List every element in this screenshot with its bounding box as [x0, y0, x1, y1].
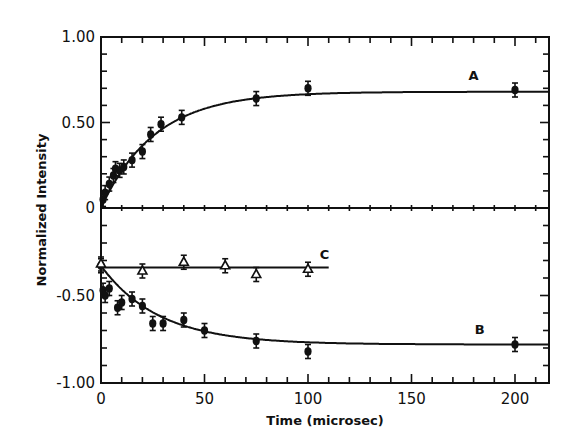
curve-label-a: A	[469, 68, 479, 83]
curve-label-c: C	[320, 247, 330, 262]
fit-curve-a	[101, 92, 548, 208]
curve-labels: ABC	[320, 68, 485, 337]
x-tick-label: 200	[501, 390, 530, 408]
data-point-b	[149, 317, 156, 331]
x-tick-label: 100	[294, 390, 323, 408]
data-point-c	[252, 268, 261, 282]
data-point-c	[138, 264, 147, 278]
y-tick-label: 0.50	[62, 114, 95, 132]
y-axis-label: Normalized Intensity	[34, 133, 49, 286]
data-point-a	[511, 83, 518, 97]
tick-labels: 0501001502001.000.500-0.50-1.00	[56, 28, 529, 408]
y-tick-label: 1.00	[62, 28, 95, 46]
fit-curves	[101, 92, 548, 345]
data-point-b	[201, 324, 208, 338]
data-point-a	[178, 110, 185, 124]
data-point-a	[253, 92, 260, 106]
x-tick-label: 0	[96, 390, 106, 408]
data-point-c	[221, 259, 230, 273]
data-point-b	[253, 334, 260, 348]
data-point-c	[304, 262, 313, 276]
data-point-b	[511, 338, 518, 352]
y-tick-label: -1.00	[56, 374, 95, 392]
x-tick-label: 150	[397, 390, 426, 408]
x-tick-label: 50	[195, 390, 214, 408]
curve-label-b: B	[475, 322, 485, 337]
y-tick-label: -0.50	[56, 287, 95, 305]
data-point-b	[304, 345, 311, 359]
x-axis-label: Time (microsec)	[266, 413, 383, 428]
data-point-b	[128, 292, 135, 306]
chart-canvas: 0501001502001.000.500-0.50-1.00 ABC Time…	[0, 0, 579, 447]
y-tick-label: 0	[85, 199, 95, 217]
data-point-b	[139, 299, 146, 313]
data-point-a	[139, 145, 146, 159]
